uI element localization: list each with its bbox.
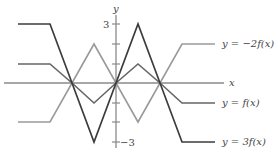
y-axis-label: y	[112, 3, 119, 14]
y-tick-label-3: 3	[103, 19, 109, 30]
legend-neg2f-label: y = −2f(x)	[221, 38, 274, 49]
function-transform-chart: y x 3 −3 y = −2f(x) y = f(x) y = 3f(x)	[0, 0, 278, 152]
y-tick-label-neg3: −3	[120, 137, 135, 148]
x-axis-label: x	[229, 77, 235, 88]
legend-3f-label: y = 3f(x)	[221, 136, 266, 147]
legend-f-label: y = f(x)	[221, 97, 260, 108]
